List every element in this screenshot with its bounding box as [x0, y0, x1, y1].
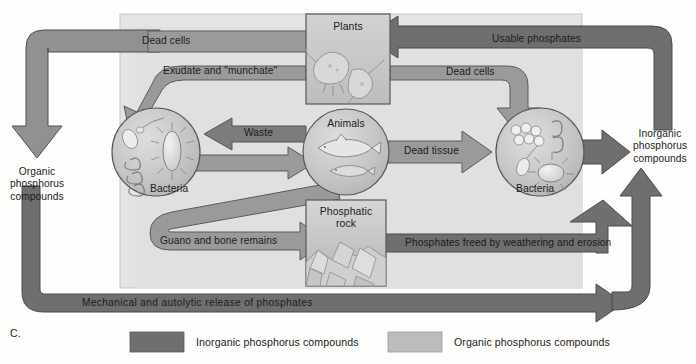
- phosphorus-cycle-figure: Organic phosphorus compounds Inorganic p…: [0, 0, 696, 364]
- pool-inorganic-line2: phosphorus: [633, 140, 687, 151]
- flow-label-dead-cells-left: Dead cells: [142, 35, 191, 47]
- flow-label-mechanical: Mechanical and autolytic release of phos…: [82, 297, 313, 309]
- flow-bacteria-release: [578, 130, 630, 174]
- pool-label-organic: Organic phosphorus compounds: [2, 166, 72, 203]
- legend-label-inorganic: Inorganic phosphorus compounds: [196, 336, 359, 348]
- node-label-animals: Animals: [304, 118, 388, 130]
- pool-organic-line2: phosphorus: [10, 178, 64, 189]
- rock-label-line2: rock: [336, 218, 356, 229]
- flow-label-guano: Guano and bone remains: [160, 235, 277, 247]
- legend-swatch-organic: [388, 332, 442, 352]
- node-label-phosphatic-rock: Phosphatic rock: [306, 206, 386, 231]
- node-label-bacteria-right: Bacteria: [516, 183, 554, 195]
- pool-organic-line3: compounds: [10, 191, 64, 202]
- flow-inorganic-riser: [612, 168, 662, 310]
- pool-inorganic-line3: compounds: [633, 153, 687, 164]
- flow-label-weathering: Phosphates freed by weathering and erosi…: [405, 237, 611, 249]
- flow-label-usable-phosphates: Usable phosphates: [492, 33, 581, 45]
- flow-label-dead-tissue: Dead tissue: [404, 145, 459, 157]
- figure-caption-letter: C.: [10, 327, 21, 339]
- node-label-plants: Plants: [306, 21, 390, 33]
- pool-organic-line1: Organic: [19, 166, 55, 177]
- pool-label-inorganic: Inorganic phosphorus compounds: [624, 128, 696, 165]
- flow-label-waste: Waste: [244, 127, 273, 139]
- legend-label-organic: Organic phosphorus compounds: [454, 336, 610, 348]
- rock-label-line1: Phosphatic: [320, 206, 372, 217]
- flow-label-dead-cells-right: Dead cells: [446, 66, 495, 78]
- flow-label-exudate: Exudate and "munchate": [163, 65, 277, 77]
- pool-inorganic-line1: Inorganic: [639, 128, 682, 139]
- node-label-bacteria-left: Bacteria: [150, 183, 188, 195]
- legend-swatch-inorganic: [130, 332, 184, 352]
